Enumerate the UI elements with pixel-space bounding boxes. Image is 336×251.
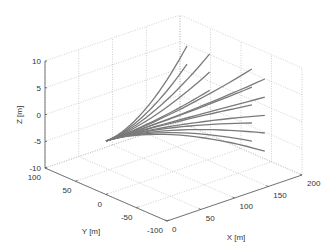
grid-line [76, 135, 211, 181]
tick-mark [167, 220, 169, 221]
y-tick-label: 0 [98, 200, 103, 209]
z-tick-label: 5 [37, 84, 42, 93]
y-tick-label: 100 [28, 173, 42, 182]
x-tick-label: 0 [172, 225, 177, 234]
z-tick-label: 0 [37, 111, 42, 120]
axes [45, 61, 302, 221]
tick-mark [76, 180, 78, 181]
y-tick-label: -50 [121, 213, 133, 222]
x-tick-label: 100 [240, 202, 254, 211]
y-tick-label: 50 [63, 186, 72, 195]
grid-line [106, 149, 241, 195]
y-tick-label: -100 [147, 226, 164, 235]
3d-trajectory-plot: 050100150200-100-50050100-10-50510 X [m]… [0, 0, 336, 251]
tick-mark [137, 207, 139, 208]
tick-mark [233, 197, 235, 198]
tick-labels: 050100150200-100-50050100-10-50510 [28, 57, 321, 235]
grid-line [113, 145, 235, 198]
x-tick-label: 200 [307, 179, 321, 188]
z-tick-label: -10 [29, 164, 41, 173]
x-axis-label: X [m] [227, 233, 246, 242]
trajectory-line [106, 72, 210, 141]
z-tick-label: 10 [32, 57, 41, 66]
z-tick-label: -5 [34, 137, 42, 146]
z-axis-label: Z [m] [15, 106, 24, 124]
tick-mark [199, 209, 201, 210]
y-axis-label: Y [m] [82, 227, 101, 236]
tick-mark [165, 220, 167, 221]
x-tick-label: 150 [273, 191, 287, 200]
tick-mark [266, 186, 268, 187]
x-tick-label: 50 [206, 214, 215, 223]
tick-mark [106, 194, 108, 195]
